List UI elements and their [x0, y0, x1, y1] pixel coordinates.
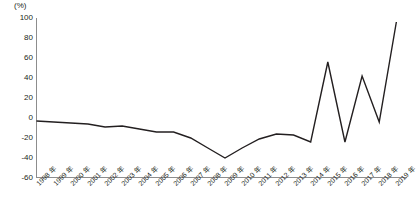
x-axis-tick-labels: 1998 年1999 年2000 年2001 年2002 年2003 年2004…	[0, 0, 411, 208]
chart-container: (%) 100806040200-20-40-60 1998 年1999 年20…	[0, 0, 411, 208]
